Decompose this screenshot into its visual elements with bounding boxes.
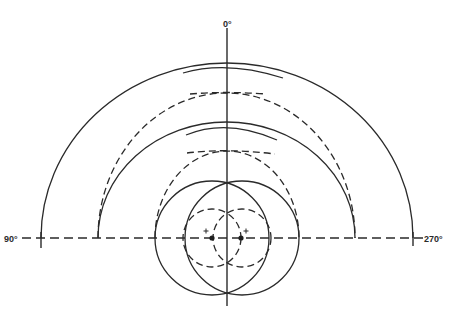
left-plus-marker: [204, 229, 209, 234]
label-90deg: 90°: [4, 234, 18, 244]
left-source-dot: [209, 235, 214, 240]
right-plus-marker: [244, 229, 249, 234]
label-0deg: 0°: [223, 19, 232, 29]
sources: [204, 229, 249, 241]
second-solid-fragment: [186, 128, 277, 140]
right-source-dot: [238, 235, 243, 240]
label-270deg: 270°: [424, 234, 443, 244]
polar-diagram: 0° 90° 270°: [0, 0, 463, 324]
outer-dashed-fragment: [190, 93, 266, 95]
second-dashed-fragment: [187, 151, 275, 154]
outer-solid-fragment: [183, 68, 283, 78]
